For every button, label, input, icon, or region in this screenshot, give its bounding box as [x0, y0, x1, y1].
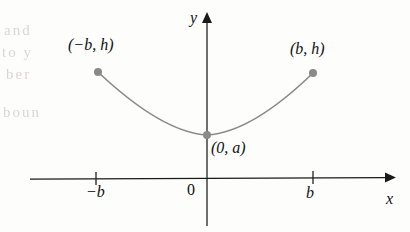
point-right-endpoint — [309, 69, 317, 77]
label-right-point: (b, h) — [290, 40, 325, 58]
plot-canvas — [0, 0, 410, 232]
figure-container: and to y ber boun (−b, h) (b, h) (0, a) … — [0, 0, 410, 232]
label-vertex-point: (0, a) — [211, 139, 246, 157]
x-axis-arrowhead — [385, 173, 396, 183]
label-y-axis: y — [190, 9, 197, 27]
label-tick-neg-b: −b — [86, 183, 105, 201]
point-left-endpoint — [94, 68, 102, 76]
catenary-curve — [98, 72, 313, 135]
label-origin: 0 — [187, 181, 195, 199]
label-left-point: (−b, h) — [68, 36, 113, 54]
label-tick-pos-b: b — [306, 184, 314, 202]
x-axis — [30, 173, 396, 183]
label-x-axis: x — [386, 190, 393, 208]
point-vertex — [203, 131, 211, 139]
y-axis — [202, 12, 212, 226]
y-axis-arrowhead — [202, 12, 212, 23]
